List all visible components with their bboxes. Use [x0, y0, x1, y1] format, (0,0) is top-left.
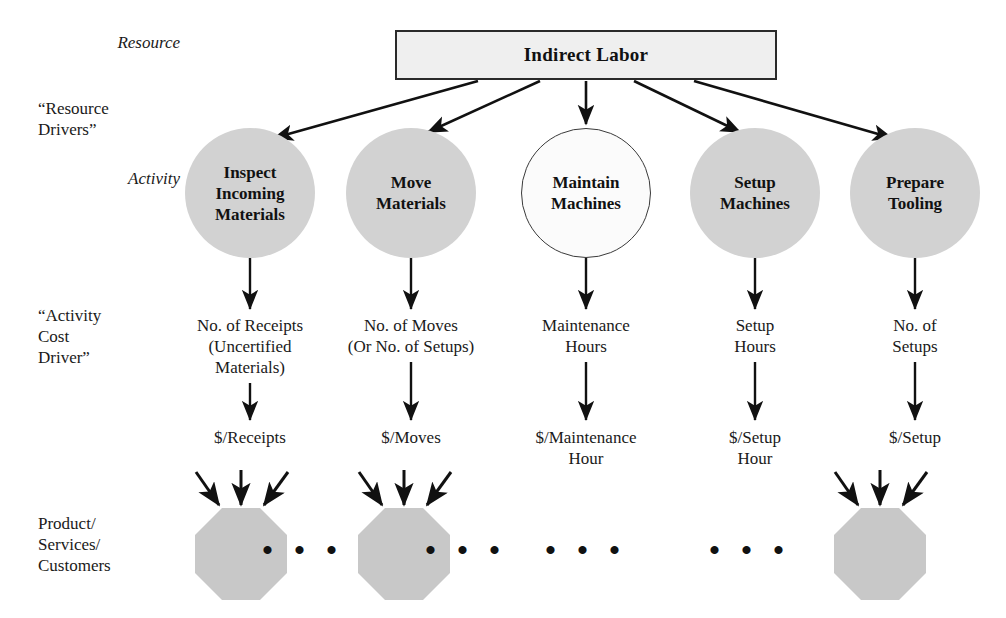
activity-circle-inspect-incoming-materials[interactable]: Inspect Incoming Materials — [185, 128, 315, 258]
activity-circle-maintain-machines[interactable]: Maintain Machines — [521, 128, 651, 258]
cost-driver-move-materials: No. of Moves (Or No. of Setups) — [306, 315, 516, 357]
ellipsis-1: • • • — [262, 535, 344, 565]
activity-circle-label: Move Materials — [376, 172, 446, 214]
activity-circle-label: Prepare Tooling — [886, 172, 944, 214]
activity-to-driver-arrows — [250, 258, 915, 309]
resource-box-indirect-labor[interactable]: Indirect Labor — [395, 30, 777, 80]
row-label-product-services-customers: Product/ Services/ Customers — [38, 513, 208, 576]
cost-rate-prepare-tooling: $/Setup — [835, 427, 995, 448]
ellipsis-3: • • • — [545, 535, 627, 565]
ellipsis-2: • • • — [425, 535, 507, 565]
activity-circle-prepare-tooling[interactable]: Prepare Tooling — [850, 128, 980, 258]
row-label-resource-drivers: “Resource Drivers” — [38, 98, 188, 140]
activity-circle-label: Setup Machines — [720, 172, 790, 214]
cost-assignment-arrows-1 — [196, 470, 288, 505]
diagram-canvas: Resource “Resource Drivers” Activity “Ac… — [0, 0, 1006, 618]
cost-assignment-arrows-2 — [359, 470, 451, 505]
row-label-resource: Resource — [40, 32, 180, 53]
cost-rate-maintain-machines: $/Maintenance Hour — [491, 427, 681, 469]
cost-driver-setup-machines: Setup Hours — [675, 315, 835, 357]
cost-rate-setup-machines: $/Setup Hour — [675, 427, 835, 469]
activity-circle-setup-machines[interactable]: Setup Machines — [690, 128, 820, 258]
ellipsis-4: • • • — [709, 535, 791, 565]
activity-circle-label: Maintain Machines — [551, 172, 621, 214]
cost-rate-move-materials: $/Moves — [321, 427, 501, 448]
activity-circle-move-materials[interactable]: Move Materials — [346, 128, 476, 258]
cost-assignment-arrows-3 — [835, 470, 927, 505]
row-label-activity: Activity — [40, 168, 180, 189]
octagon-products-3 — [834, 508, 926, 600]
cost-rate-inspect-incoming-materials: $/Receipts — [160, 427, 340, 448]
resource-box-label: Indirect Labor — [524, 44, 649, 66]
cost-driver-maintain-machines: Maintenance Hours — [496, 315, 676, 357]
activity-circle-label: Inspect Incoming Materials — [215, 162, 285, 225]
cost-driver-prepare-tooling: No. of Setups — [835, 315, 995, 357]
